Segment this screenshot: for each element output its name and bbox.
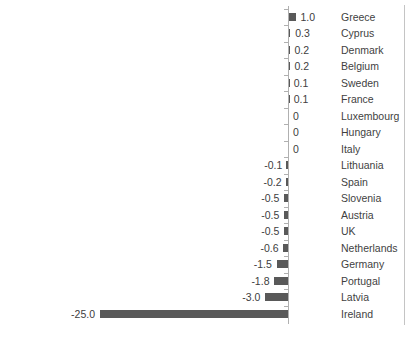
bar-value-label: 0 [293, 109, 299, 123]
category-label: France [341, 92, 374, 106]
chart-row: 0Luxembourg [0, 108, 420, 125]
chart-row: -1.8Portugal [0, 273, 420, 290]
bar-value-label: 0.3 [295, 26, 310, 40]
category-label: Portugal [341, 274, 380, 288]
chart-row: 0.3Cyprus [0, 25, 420, 42]
bar [277, 260, 288, 268]
bar [288, 13, 296, 21]
bar-value-label: -1.8 [251, 274, 269, 288]
bar-value-label: -0.5 [261, 224, 279, 238]
category-label: Greece [341, 10, 375, 24]
bar-value-label: 0.2 [295, 43, 310, 57]
chart-row: 0.1France [0, 91, 420, 108]
category-label: Cyprus [341, 26, 374, 40]
category-label: Luxembourg [341, 109, 399, 123]
bar-value-label: 0.1 [294, 92, 309, 106]
category-label: UK [341, 224, 356, 238]
chart-row: 0.2Denmark [0, 42, 420, 59]
bar-value-label: -0.5 [261, 208, 279, 222]
category-label: Italy [341, 142, 360, 156]
bar-value-label: -0.5 [261, 191, 279, 205]
chart-row: 0.2Belgium [0, 58, 420, 75]
chart-row: -0.2Spain [0, 174, 420, 191]
category-label: Hungary [341, 125, 381, 139]
category-label: Lithuania [341, 158, 384, 172]
bar-value-label: 0.2 [295, 59, 310, 73]
bar-value-label: -0.2 [263, 175, 281, 189]
bar-value-label: -25.0 [71, 307, 95, 321]
category-label: Ireland [341, 307, 373, 321]
chart-row: 0.1Sweden [0, 75, 420, 92]
category-label: Austria [341, 208, 374, 222]
bar [274, 277, 288, 285]
category-label: Denmark [341, 43, 384, 57]
bar-value-label: 0 [293, 125, 299, 139]
bar-value-label: 1.0 [301, 10, 316, 24]
chart-row: -0.6Netherlands [0, 240, 420, 257]
plot-right-border [404, 5, 405, 325]
category-label: Spain [341, 175, 368, 189]
bar-value-label: -3.0 [242, 290, 260, 304]
chart-row: -0.5Austria [0, 207, 420, 224]
chart-row: -25.0Ireland [0, 306, 420, 323]
chart-row: -0.5UK [0, 223, 420, 240]
chart-rows: 1.0Greece0.3Cyprus0.2Denmark0.2Belgium0.… [0, 0, 420, 342]
bar-value-label: 0 [293, 142, 299, 156]
chart-row: -1.5Germany [0, 256, 420, 273]
category-label: Germany [341, 257, 384, 271]
zero-axis-line [288, 6, 289, 324]
chart-row: 0Hungary [0, 124, 420, 141]
bar [265, 293, 288, 301]
chart-row: 1.0Greece [0, 9, 420, 26]
bar-value-label: 0.1 [294, 76, 309, 90]
chart-row: -0.1Lithuania [0, 157, 420, 174]
bar-value-label: -0.1 [264, 158, 282, 172]
bar-chart: 1.0Greece0.3Cyprus0.2Denmark0.2Belgium0.… [0, 0, 420, 342]
category-label: Netherlands [341, 241, 398, 255]
chart-row: -3.0Latvia [0, 289, 420, 306]
chart-row: -0.5Slovenia [0, 190, 420, 207]
bar [100, 310, 288, 318]
chart-row: 0Italy [0, 141, 420, 158]
bar-value-label: -1.5 [254, 257, 272, 271]
category-label: Sweden [341, 76, 379, 90]
bar-value-label: -0.6 [260, 241, 278, 255]
category-label: Belgium [341, 59, 379, 73]
category-label: Latvia [341, 290, 369, 304]
category-label: Slovenia [341, 191, 381, 205]
